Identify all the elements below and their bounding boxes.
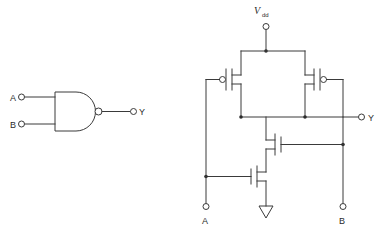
pmos-a-gate-bubble [220, 77, 226, 83]
pmos-b-gate-bubble [321, 77, 327, 83]
symbol-input-b-terminal[interactable] [19, 121, 25, 127]
symbol-input-a-terminal[interactable] [19, 94, 25, 100]
output-node-dot-left [239, 115, 243, 119]
vdd-terminal[interactable] [263, 24, 269, 30]
cmos-schematic-group: V dd A B Y [202, 5, 374, 226]
output-node-dot-right [303, 115, 307, 119]
ground-symbol [259, 206, 273, 218]
vdd-label-sub: dd [262, 12, 269, 18]
schematic-label-y: Y [368, 113, 374, 123]
schematic-label-a: A [202, 216, 208, 226]
schematic-label-b: B [339, 216, 345, 226]
symbol-output-terminal[interactable] [131, 109, 137, 115]
schematic-input-a-terminal[interactable] [203, 204, 209, 210]
nand-symbol-group: A B Y [10, 92, 145, 131]
schematic-canvas: A B Y [0, 0, 385, 235]
symbol-inversion-bubble [95, 108, 102, 115]
output-y-terminal[interactable] [359, 114, 365, 120]
schematic-input-b-terminal[interactable] [340, 204, 346, 210]
symbol-label-y: Y [139, 107, 145, 117]
vdd-label-main: V [254, 5, 262, 16]
and-gate-body [55, 92, 96, 131]
symbol-label-b: B [10, 120, 16, 130]
symbol-label-a: A [10, 93, 16, 103]
circuit-figure: A B Y [0, 0, 385, 235]
